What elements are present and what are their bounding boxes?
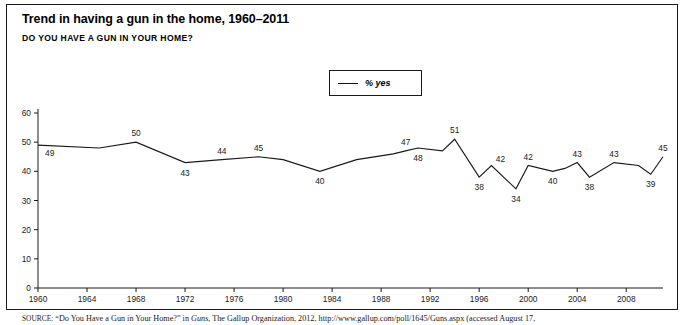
figure-container: Trend in having a gun in the home, 1960–… [0,0,686,325]
x-tick-label: 1976 [225,294,244,304]
data-point-label: 43 [180,168,190,178]
data-point-label: 34 [511,194,521,204]
data-point-label: 38 [585,182,595,192]
y-tick-label: 20 [22,225,32,235]
data-point-label: 39 [646,179,656,189]
x-tick-label: 2004 [568,294,587,304]
line-chart: 0102030405060196019641968197219761980198… [0,0,686,325]
data-point-label: 48 [413,153,423,163]
x-tick-label: 1972 [176,294,195,304]
data-point-label: 44 [217,146,227,156]
series-line-pct-yes [38,139,663,189]
x-tick-label: 1980 [274,294,293,304]
data-point-label: 47 [401,137,411,147]
x-tick-label: 2008 [617,294,636,304]
data-point-label: 40 [315,176,325,186]
data-point-label: 50 [131,128,141,138]
x-tick-label: 2000 [519,294,538,304]
x-tick-label: 1984 [323,294,342,304]
x-tick-label: 1964 [78,294,97,304]
data-point-label: 40 [548,176,558,186]
x-tick-label: 1996 [470,294,489,304]
data-point-label: 45 [658,143,668,153]
y-tick-label: 0 [26,283,31,293]
source-note: SOURCE: “Do You Have a Gun in Your Home?… [22,314,682,323]
data-point-label: 49 [45,148,55,158]
y-tick-label: 50 [22,137,32,147]
source-text-2: , The Gallup Organization, 2012, http://… [208,314,535,323]
data-point-label: 42 [496,154,506,164]
x-tick-label: 1992 [421,294,440,304]
source-title-italic: Guns [191,314,208,323]
x-tick-label: 1968 [127,294,146,304]
data-point-label: 51 [450,125,460,135]
source-text-1: “Do You Have a Gun in Your Home?” in [53,314,191,323]
x-tick-label: 1988 [372,294,391,304]
y-tick-label: 40 [22,166,32,176]
x-tick-label: 1960 [29,294,48,304]
data-point-label: 43 [609,149,619,159]
data-point-label: 38 [475,182,485,192]
y-tick-label: 10 [22,254,32,264]
data-point-label: 43 [573,149,583,159]
source-prefix: SOURCE: [22,314,53,323]
y-tick-label: 30 [22,196,32,206]
data-point-label: 45 [254,143,264,153]
y-tick-label: 60 [22,108,32,118]
data-point-label: 42 [524,152,534,162]
